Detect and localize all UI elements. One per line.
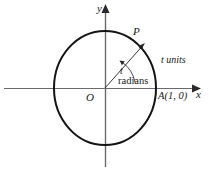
y-axis-label: y (97, 3, 102, 14)
y-axis-arrow-icon (102, 4, 110, 13)
unit-circle-diagram: y x O P A(1, 0) t units t radians (0, 0, 209, 176)
diagram-canvas (0, 0, 209, 176)
origin-label: O (86, 92, 94, 103)
point-A-label: A(1, 0) (158, 91, 187, 102)
x-axis-label: x (196, 89, 201, 100)
y-axis (102, 4, 110, 167)
point-P-label: P (133, 26, 140, 37)
arc-length-label: t units (161, 55, 186, 65)
point-P-marker (139, 46, 142, 49)
angle-unit-label: radians (118, 76, 148, 87)
